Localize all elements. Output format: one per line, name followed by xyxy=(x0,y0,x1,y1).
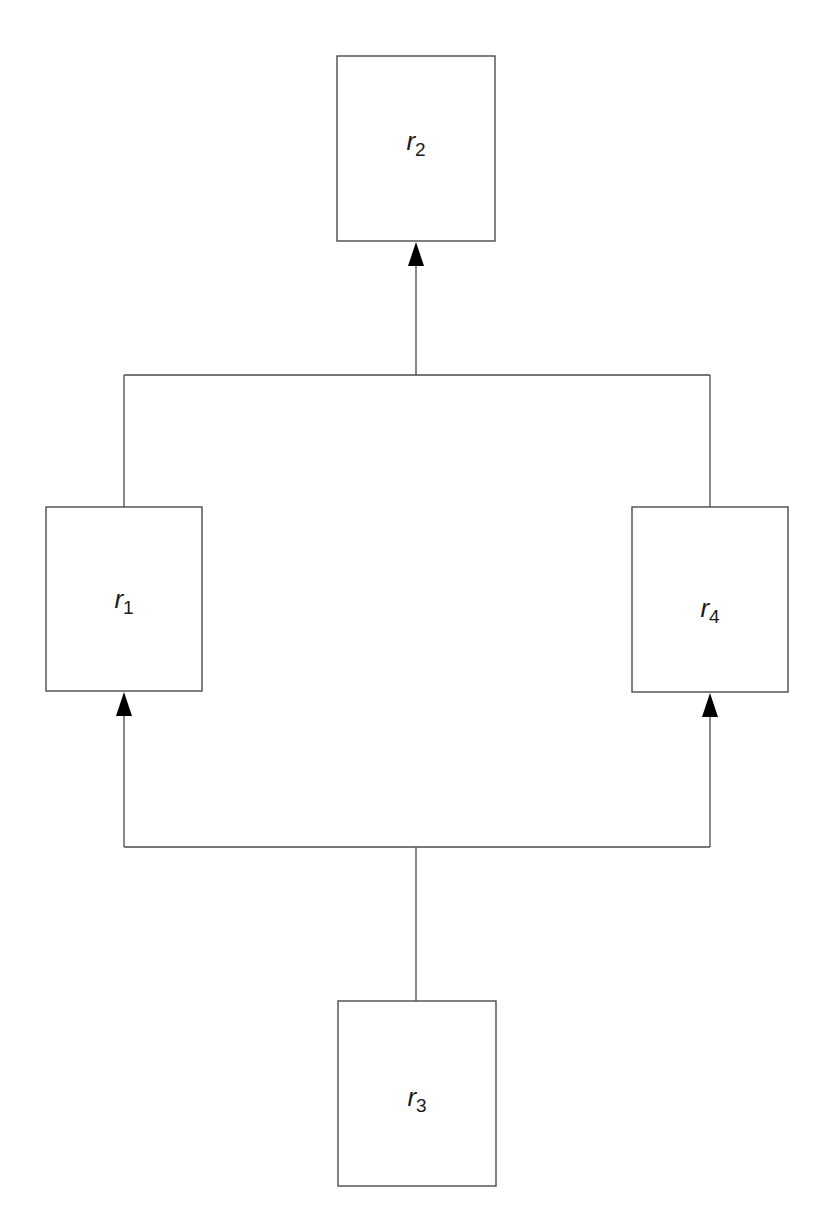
edge-group-r1-r4-to-r2 xyxy=(124,242,710,507)
node-r2: r2 xyxy=(337,56,495,241)
diagram-canvas: r2 r1 r4 r3 xyxy=(0,0,829,1227)
node-r4-box xyxy=(632,507,788,692)
node-r3: r3 xyxy=(338,1001,496,1186)
arrowhead-into-r4 xyxy=(702,693,718,717)
node-r3-box xyxy=(338,1001,496,1186)
edge-group-r3-to-r1-r4 xyxy=(116,692,718,1001)
node-r4: r4 xyxy=(632,507,788,692)
arrowhead-into-r1 xyxy=(116,692,132,716)
arrowhead-into-r2 xyxy=(408,242,424,266)
node-r1: r1 xyxy=(46,507,202,691)
